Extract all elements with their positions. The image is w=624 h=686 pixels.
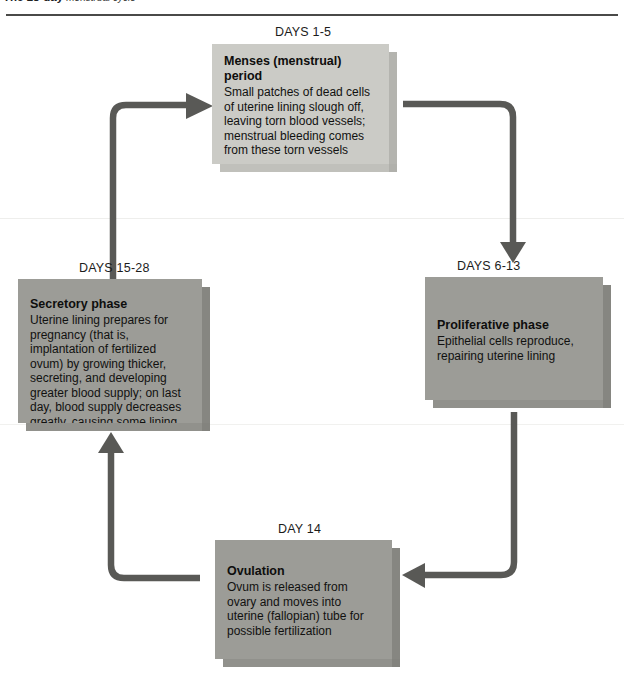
phase-title-menses: Menses (menstrual) period xyxy=(224,54,377,84)
box-side-shade xyxy=(603,285,611,400)
box-corner-shade xyxy=(392,659,400,667)
day-label-menses: DAYS 1-5 xyxy=(275,25,331,39)
header-title-italic: menstrual cycle xyxy=(66,0,135,3)
phase-body-secretory: Uterine lining prepares for pregnancy (t… xyxy=(30,313,190,423)
connector-proliferative-to-ovulation xyxy=(402,412,514,588)
phase-box-face: Menses (menstrual) period Small patches … xyxy=(212,44,389,164)
phase-box-ovulation: Ovulation Ovum is released from ovary an… xyxy=(215,540,400,667)
box-corner-shade xyxy=(202,423,210,431)
day-label-secretory: DAYS 15-28 xyxy=(79,261,150,275)
day-label-ovulation: DAY 14 xyxy=(278,522,321,536)
box-side-shade xyxy=(392,548,400,659)
phase-title-secretory: Secretory phase xyxy=(30,297,190,312)
phase-title-proliferative: Proliferative phase xyxy=(437,318,591,333)
day-label-proliferative: DAYS 6-13 xyxy=(457,259,520,273)
connector-ovulation-to-secretory xyxy=(98,432,200,578)
box-corner-shade xyxy=(603,400,611,408)
box-bottom-shade xyxy=(223,659,392,667)
phase-box-proliferative: Proliferative phase Epithelial cells rep… xyxy=(425,277,611,408)
phase-box-secretory: Secretory phase Uterine lining prepares … xyxy=(18,279,210,431)
phase-box-face: Proliferative phase Epithelial cells rep… xyxy=(425,277,603,400)
phase-box-menses: Menses (menstrual) period Small patches … xyxy=(212,44,397,172)
phase-body-menses: Small patches of dead cells of uterine l… xyxy=(224,85,377,158)
diagram-page: The 28-day menstrual cycle DAYS 1-5 xyxy=(0,0,624,686)
box-bottom-shade xyxy=(26,423,202,431)
box-side-shade xyxy=(389,52,397,164)
header-title-bold: The 28-day xyxy=(3,0,63,3)
phase-body-proliferative: Epithelial cells reproduce, repairing ut… xyxy=(437,334,591,363)
box-bottom-shade xyxy=(433,400,603,408)
connector-secretory-to-menses xyxy=(113,93,213,285)
phase-title-ovulation: Ovulation xyxy=(227,564,380,579)
phase-body-ovulation: Ovum is released from ovary and moves in… xyxy=(227,580,380,638)
header-title: The 28-day menstrual cycle xyxy=(3,0,136,3)
box-corner-shade xyxy=(389,164,397,172)
header-divider xyxy=(6,14,618,16)
scan-artifact-upper xyxy=(0,218,624,219)
phase-box-face: Secretory phase Uterine lining prepares … xyxy=(18,279,202,423)
phase-box-face: Ovulation Ovum is released from ovary an… xyxy=(215,540,392,659)
box-side-shade xyxy=(202,287,210,423)
box-bottom-shade xyxy=(220,164,389,172)
connector-menses-to-proliferative xyxy=(403,104,526,263)
